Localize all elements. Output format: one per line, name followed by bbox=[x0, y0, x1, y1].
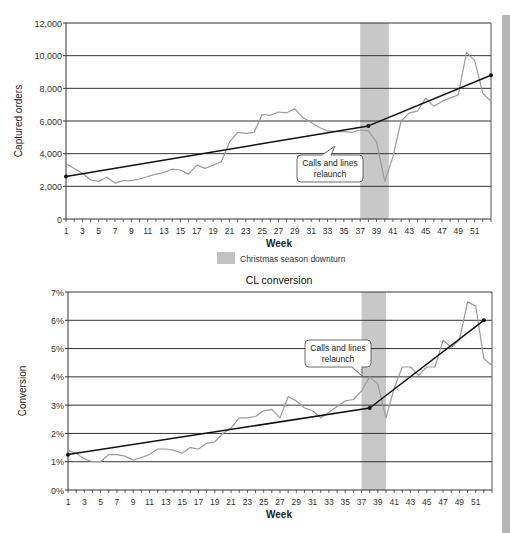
x-tick-label: 45 bbox=[421, 226, 431, 236]
x-tick-label: 41 bbox=[389, 497, 399, 507]
trend-marker bbox=[366, 124, 370, 128]
callout-text-line2: relaunch bbox=[322, 354, 355, 364]
trend-line bbox=[66, 75, 491, 176]
x-tick-label: 49 bbox=[454, 226, 464, 236]
x-tick-label: 13 bbox=[159, 226, 169, 236]
x-tick-label: 25 bbox=[257, 226, 267, 236]
x-tick-label: 41 bbox=[388, 226, 398, 236]
callout-text-line1: Calls and lines bbox=[302, 158, 357, 168]
y-tick-label: 3% bbox=[51, 401, 64, 411]
x-tick-label: 47 bbox=[437, 226, 447, 236]
x-tick-label: 29 bbox=[290, 226, 300, 236]
x-tick-label: 49 bbox=[455, 497, 465, 507]
x-tick-label: 21 bbox=[225, 226, 235, 236]
chart-canvas: 02,0004,0006,0008,00010,00012,0001357911… bbox=[0, 0, 510, 533]
shaded-region bbox=[362, 292, 386, 490]
x-tick-label: 9 bbox=[131, 497, 136, 507]
x-tick-label: 37 bbox=[355, 226, 365, 236]
y-tick-label: 7% bbox=[51, 288, 64, 298]
chart-title: CL conversion bbox=[246, 274, 313, 286]
x-tick-label: 19 bbox=[210, 497, 220, 507]
x-tick-label: 9 bbox=[129, 226, 134, 236]
x-tick-label: 35 bbox=[339, 226, 349, 236]
x-tick-label: 51 bbox=[470, 226, 480, 236]
legend-label: Christmas season downturn bbox=[240, 254, 346, 264]
callout-text-line1: Calls and lines bbox=[310, 343, 365, 353]
x-tick-label: 17 bbox=[192, 226, 202, 236]
annotation-callout: Calls and linesrelaunch bbox=[305, 340, 371, 376]
x-tick-label: 5 bbox=[98, 497, 103, 507]
trend-marker bbox=[368, 406, 372, 410]
trend-line bbox=[68, 320, 484, 454]
x-tick-label: 3 bbox=[80, 226, 85, 236]
x-tick-label: 27 bbox=[275, 497, 285, 507]
x-tick-label: 29 bbox=[292, 497, 302, 507]
trend-marker bbox=[489, 73, 493, 77]
data-series-line bbox=[66, 52, 491, 183]
y-tick-label: 5% bbox=[51, 344, 64, 354]
trend-marker bbox=[66, 453, 70, 457]
x-tick-label: 11 bbox=[145, 497, 154, 507]
y-tick-label: 2,000 bbox=[39, 182, 62, 192]
x-tick-label: 23 bbox=[243, 497, 253, 507]
x-tick-label: 7 bbox=[113, 226, 118, 236]
y-tick-label: 6,000 bbox=[39, 117, 62, 127]
x-tick-label: 51 bbox=[471, 497, 481, 507]
callout-text-line2: relaunch bbox=[314, 169, 347, 179]
y-tick-label: 0 bbox=[57, 215, 62, 225]
x-tick-label: 33 bbox=[323, 226, 333, 236]
cl-conversion-chart: 0%1%2%3%4%5%6%7%135791113151719212325272… bbox=[17, 288, 492, 521]
x-axis-label: Week bbox=[266, 238, 292, 249]
x-tick-label: 31 bbox=[308, 497, 318, 507]
trend-marker bbox=[482, 318, 486, 322]
side-scrollbar bbox=[502, 15, 510, 533]
y-axis-label: Captured orders bbox=[13, 85, 24, 157]
y-tick-label: 8,000 bbox=[39, 84, 62, 94]
y-tick-label: 0% bbox=[51, 486, 64, 496]
x-tick-label: 17 bbox=[194, 497, 204, 507]
x-tick-label: 31 bbox=[306, 226, 316, 236]
trend-marker bbox=[64, 175, 68, 179]
x-tick-label: 45 bbox=[422, 497, 432, 507]
annotation-callout: Calls and linesrelaunch bbox=[297, 146, 363, 182]
x-tick-label: 43 bbox=[406, 497, 416, 507]
x-tick-label: 7 bbox=[115, 497, 120, 507]
data-series-line bbox=[68, 302, 492, 462]
x-tick-label: 27 bbox=[274, 226, 284, 236]
legend: Christmas season downturn bbox=[217, 252, 346, 264]
x-tick-label: 39 bbox=[373, 497, 383, 507]
x-tick-label: 23 bbox=[241, 226, 251, 236]
x-axis-label: Week bbox=[266, 509, 292, 520]
legend-swatch bbox=[217, 252, 235, 264]
x-tick-label: 19 bbox=[208, 226, 218, 236]
captured-orders-chart: 02,0004,0006,0008,00010,00012,0001357911… bbox=[13, 19, 493, 250]
x-tick-label: 15 bbox=[176, 226, 186, 236]
x-tick-label: 1 bbox=[66, 497, 71, 507]
x-tick-label: 47 bbox=[438, 497, 448, 507]
y-tick-label: 10,000 bbox=[34, 51, 62, 61]
y-tick-label: 2% bbox=[51, 429, 64, 439]
y-tick-label: 1% bbox=[51, 457, 64, 467]
x-tick-label: 33 bbox=[324, 497, 334, 507]
y-tick-label: 4,000 bbox=[39, 149, 62, 159]
y-tick-label: 4% bbox=[51, 372, 64, 382]
x-tick-label: 21 bbox=[226, 497, 236, 507]
x-tick-label: 5 bbox=[96, 226, 101, 236]
x-tick-label: 11 bbox=[143, 226, 152, 236]
x-tick-label: 37 bbox=[357, 497, 367, 507]
x-tick-label: 15 bbox=[177, 497, 187, 507]
x-tick-label: 43 bbox=[405, 226, 415, 236]
x-tick-label: 3 bbox=[82, 497, 87, 507]
y-tick-label: 6% bbox=[51, 316, 64, 326]
chart-figure: 02,0004,0006,0008,00010,00012,0001357911… bbox=[0, 0, 510, 533]
x-tick-label: 39 bbox=[372, 226, 382, 236]
y-axis-label: Conversion bbox=[17, 366, 28, 417]
x-tick-label: 25 bbox=[259, 497, 269, 507]
y-tick-label: 12,000 bbox=[34, 19, 62, 29]
x-tick-label: 1 bbox=[64, 226, 69, 236]
x-tick-label: 35 bbox=[340, 497, 350, 507]
x-tick-label: 13 bbox=[161, 497, 171, 507]
